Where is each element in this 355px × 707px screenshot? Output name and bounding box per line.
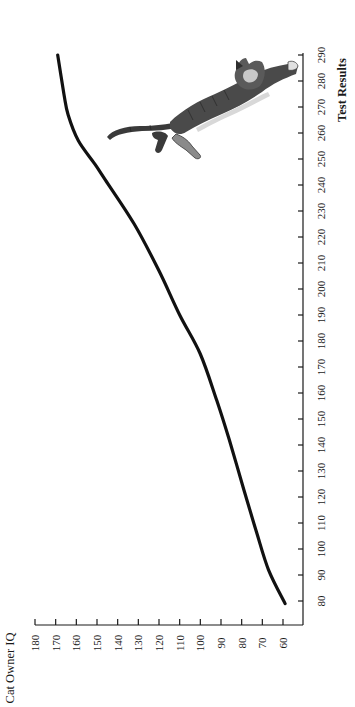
iq-ticks: 60708090100110120130140150160170180	[29, 619, 289, 651]
chart: 8090100110120130140150160170180190200210…	[0, 0, 355, 707]
test-results-tick-label: 100	[315, 540, 327, 557]
cat-body	[170, 64, 298, 134]
iq-tick-label: 140	[112, 634, 124, 651]
test-results-tick-label: 200	[315, 280, 327, 297]
data-line	[58, 55, 285, 604]
test-results-ticks: 8090100110120130140150160170180190200210…	[298, 46, 327, 606]
test-results-tick-label: 90	[315, 569, 327, 581]
test-results-tick-label: 180	[315, 332, 327, 349]
test-results-tick-label: 210	[315, 254, 327, 271]
test-results-tick-label: 230	[315, 202, 327, 219]
iq-tick-label: 180	[29, 634, 41, 651]
test-results-tick-label: 120	[315, 488, 327, 505]
axes	[35, 53, 303, 625]
test-results-tick-label: 170	[315, 358, 327, 375]
test-results-tick-label: 290	[315, 46, 327, 63]
iq-tick-label: 100	[194, 634, 206, 651]
test-results-tick-label: 140	[315, 436, 327, 453]
iq-tick-label: 70	[256, 637, 268, 649]
iq-tick-label: 130	[132, 634, 144, 651]
iq-tick-label: 170	[50, 634, 62, 651]
test-results-tick-label: 80	[315, 595, 327, 607]
cat-hind-leg-1	[152, 132, 168, 153]
test-results-tick-label: 280	[315, 72, 327, 89]
test-results-tick-label: 190	[315, 306, 327, 323]
iq-axis-title: Cat Owner IQ	[3, 633, 17, 704]
iq-tick-label: 110	[174, 634, 186, 651]
test-results-tick-label: 250	[315, 150, 327, 167]
test-results-tick-label: 260	[315, 124, 327, 141]
test-results-tick-label: 130	[315, 462, 327, 479]
test-results-tick-label: 110	[315, 514, 327, 531]
test-results-axis-title: Test Results	[335, 58, 349, 122]
cat-front-paw	[288, 61, 298, 70]
cat-tail	[107, 122, 180, 140]
leaping-cat-illustration	[107, 58, 298, 159]
test-results-tick-label: 150	[315, 410, 327, 427]
test-results-tick-label: 270	[315, 98, 327, 115]
iq-tick-label: 90	[215, 637, 227, 649]
cat-hind-leg-2	[172, 134, 201, 159]
iq-tick-label: 120	[153, 634, 165, 651]
iq-tick-label: 150	[91, 634, 103, 651]
test-results-tick-label: 160	[315, 384, 327, 401]
test-results-tick-label: 240	[315, 176, 327, 193]
iq-tick-label: 80	[236, 637, 248, 649]
iq-tick-label: 160	[70, 634, 82, 651]
test-results-tick-label: 220	[315, 228, 327, 245]
iq-tick-label: 60	[277, 637, 289, 649]
